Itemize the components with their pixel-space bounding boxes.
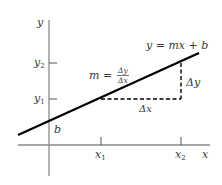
line-equation-label: y = mx + b <box>145 39 208 52</box>
slope-denominator: Δx <box>117 76 128 85</box>
x1-label: x1 <box>95 148 106 162</box>
y1-label: y1 <box>33 92 45 106</box>
delta-y-label: Δy <box>185 76 201 89</box>
intercept-label: b <box>54 123 61 136</box>
linear-function-line <box>18 53 199 135</box>
x-axis-label: x <box>202 148 209 161</box>
y-axis-label: y <box>36 16 44 29</box>
y2-label: y2 <box>33 56 45 70</box>
slope-numerator: Δy <box>117 66 128 75</box>
delta-x-label: Δx <box>138 103 152 114</box>
x2-label: x2 <box>175 148 186 162</box>
slope-diagram: y x y2 y1 x1 x2 b y = mx + b m = Δy Δx Δ… <box>0 0 222 185</box>
slope-lhs: m = <box>89 69 112 82</box>
